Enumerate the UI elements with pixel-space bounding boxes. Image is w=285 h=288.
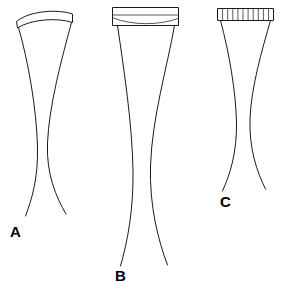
background bbox=[0, 0, 285, 288]
panel-c-cap-rectangle bbox=[218, 9, 274, 21]
panel-a-label: A bbox=[10, 223, 21, 240]
figure-canvas: A B bbox=[0, 0, 285, 288]
panel-b-label: B bbox=[115, 267, 126, 284]
panel-c-label: C bbox=[220, 193, 231, 210]
diagram-svg: A B bbox=[0, 0, 285, 288]
panel-b-cap-rectangle bbox=[113, 8, 179, 26]
